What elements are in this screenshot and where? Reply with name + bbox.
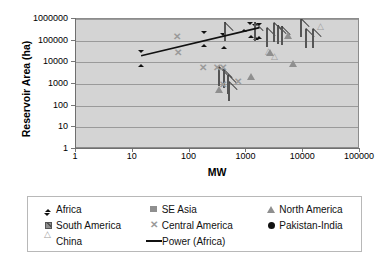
marker-circle-icon <box>268 222 275 229</box>
x-tick-label: 1 <box>72 152 77 161</box>
data-point <box>284 18 292 33</box>
legend-row: South America✕Central AmericaPakistan-In… <box>28 217 361 233</box>
data-point <box>305 30 307 48</box>
data-point <box>289 43 297 61</box>
chart-legend: AfricaSE AsiaNorth AmericaSouth America✕… <box>27 196 362 252</box>
data-point <box>247 56 255 74</box>
data-point <box>266 32 274 50</box>
x-tick-label: 1000 <box>235 152 255 161</box>
y-tick-label: 100 <box>53 100 68 109</box>
marker-diamond-icon <box>138 44 144 67</box>
marker-square-icon <box>150 206 157 213</box>
legend-row: ChinaPower (Africa) <box>28 233 361 249</box>
data-point <box>318 30 326 48</box>
marker-filled-triangle-icon <box>247 56 255 80</box>
y-axis-label: Reservoir Area (ha) <box>20 19 32 159</box>
legend-marker: ✕ <box>146 220 162 230</box>
marker-patterned-square-icon <box>45 222 52 229</box>
x-tick-label: 10 <box>127 152 137 161</box>
legend-row: AfricaSE AsiaNorth America <box>28 201 361 217</box>
plot-box: ✕✕✕✕✕✕✕ <box>75 18 359 148</box>
y-tick-label: 10 <box>58 122 68 131</box>
marker-filled-triangle-icon <box>289 43 297 67</box>
legend-item-pakistan-india[interactable]: Pakistan-India <box>263 220 361 231</box>
marker-patterned-square-icon <box>277 25 279 44</box>
legend-item-label: North America <box>279 204 342 215</box>
legend-item-africa[interactable]: Africa <box>28 204 146 215</box>
marker-patterned-square-icon <box>224 22 226 41</box>
marker-diamond-icon <box>45 206 51 212</box>
y-tick-label: 100000 <box>38 35 68 44</box>
marker-x-icon: ✕ <box>199 62 207 73</box>
legend-item-label: South America <box>56 220 121 231</box>
legend-marker <box>146 206 162 213</box>
marker-open-triangle-icon <box>318 30 326 54</box>
y-tick-label: 1000000 <box>33 14 68 23</box>
legend-marker <box>263 222 279 229</box>
data-point <box>300 19 302 37</box>
marker-line-icon <box>146 240 162 242</box>
legend-marker <box>146 240 162 242</box>
legend-item-label: China <box>56 236 82 247</box>
data-point: ✕ <box>174 42 182 60</box>
y-tick-label: 1000 <box>48 79 68 88</box>
legend-marker <box>40 222 56 229</box>
data-point <box>277 26 279 44</box>
y-tick-label: 1 <box>63 144 68 153</box>
data-point <box>224 23 226 41</box>
legend-item-power-africa[interactable]: Power (Africa) <box>146 236 264 247</box>
legend-item-label: Africa <box>56 204 82 215</box>
gridline <box>76 106 358 107</box>
x-tick-label: 10000 <box>290 152 315 161</box>
data-point <box>312 30 314 48</box>
data-point <box>227 76 229 94</box>
marker-patterned-square-icon <box>312 29 314 48</box>
marker-open-triangle-icon <box>44 238 52 245</box>
legend-marker <box>40 206 56 212</box>
x-axis-line <box>75 148 359 149</box>
marker-patterned-square-icon <box>227 75 229 94</box>
marker-x-icon: ✕ <box>150 220 158 230</box>
data-point <box>138 47 144 65</box>
y-axis-line <box>75 18 76 149</box>
marker-filled-triangle-icon <box>267 206 275 213</box>
data-point <box>215 69 223 87</box>
x-tick-label: 100000 <box>344 152 374 161</box>
x-tick-mark <box>359 148 360 152</box>
legend-item-label: Central America <box>162 220 233 231</box>
marker-diamond-icon <box>241 18 247 32</box>
legend-item-label: Pakistan-India <box>279 220 342 231</box>
legend-marker <box>40 238 56 245</box>
x-tick-label: 100 <box>181 152 196 161</box>
marker-x-icon: ✕ <box>174 47 182 58</box>
marker-x-icon: ✕ <box>173 31 181 42</box>
gridline <box>76 19 358 20</box>
marker-diamond-icon <box>201 24 207 47</box>
marker-filled-triangle-icon <box>215 69 223 93</box>
data-point <box>281 27 283 45</box>
legend-item-china[interactable]: China <box>28 236 146 247</box>
x-axis-label: MW <box>75 166 359 178</box>
marker-filled-triangle-icon <box>284 18 292 39</box>
gridline <box>76 127 358 128</box>
marker-filled-triangle-icon <box>266 32 274 56</box>
data-point <box>272 60 280 78</box>
data-point: ✕ <box>199 57 207 75</box>
legend-marker <box>263 206 279 213</box>
chart-figure: Reservoir Area (ha) 11010010001000010000… <box>0 0 389 260</box>
marker-patterned-square-icon <box>305 29 307 48</box>
legend-item-label: SE Asia <box>162 204 197 215</box>
legend-item-central-america[interactable]: ✕Central America <box>146 220 264 231</box>
data-point <box>201 27 207 45</box>
legend-item-north-america[interactable]: North America <box>263 204 361 215</box>
marker-patterned-square-icon <box>281 26 283 45</box>
data-point <box>241 18 247 30</box>
marker-open-triangle-icon <box>272 60 280 84</box>
chart-plot-area: Reservoir Area (ha) 11010010001000010000… <box>0 0 389 190</box>
marker-x-icon: ✕ <box>234 76 242 87</box>
data-point: ✕ <box>234 71 242 89</box>
legend-item-label: Power (Africa) <box>162 236 225 247</box>
y-tick-label: 10000 <box>43 57 68 66</box>
data-point <box>254 23 256 41</box>
legend-item-se-asia[interactable]: SE Asia <box>146 204 264 215</box>
